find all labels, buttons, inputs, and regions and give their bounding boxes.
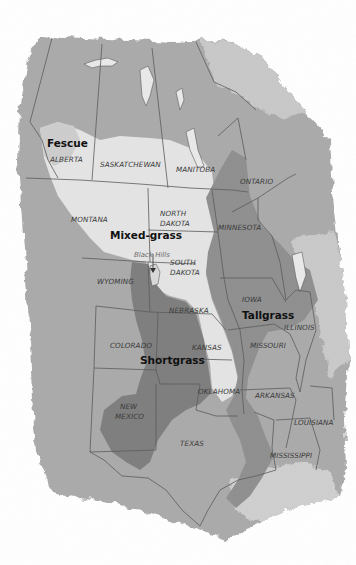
label-wyoming: WYOMING (97, 277, 134, 286)
label-south-dakota: DAKOTA (170, 268, 200, 277)
label-kansas: KANSAS (192, 343, 222, 352)
label-black-hills: Black Hills (134, 251, 170, 259)
label-colorado: COLORADO (110, 341, 152, 350)
region-label-shortgrass: Shortgrass (140, 354, 205, 366)
label-saskatchewan: SASKATCHEWAN (100, 160, 161, 169)
label-new-mexico: MEXICO (115, 412, 144, 421)
label-montana: MONTANA (71, 215, 108, 224)
label-minnesota: MINNESOTA (218, 223, 261, 232)
region-label-tallgrass: Tallgrass (242, 309, 294, 321)
label-louisiana: LOUISIANA (294, 418, 334, 427)
label-alberta: ALBERTA (49, 155, 83, 164)
label-iowa: IOWA (242, 295, 262, 304)
grassland-map: ALBERTA SASKATCHEWAN MANITOBA ONTARIO MO… (0, 0, 356, 565)
label-north-dakota: DAKOTA (160, 219, 190, 228)
label-nebraska: NEBRASKA (169, 306, 209, 315)
label-missouri: MISSOURI (250, 341, 286, 350)
region-label-fescue: Fescue (47, 137, 88, 149)
label-texas: TEXAS (180, 439, 204, 448)
label-mississippi: MISSISSIPPI (270, 451, 312, 460)
label-ontario: ONTARIO (240, 177, 273, 186)
label-oklahoma: OKLAHOMA (198, 387, 240, 396)
region-label-mixed-grass: Mixed-grass (110, 229, 182, 241)
label-arkansas: ARKANSAS (254, 391, 295, 400)
label-new: NEW (120, 402, 138, 411)
label-south: SOUTH (170, 258, 196, 267)
label-north: NORTH (160, 209, 187, 218)
label-illinois: ILLINOIS (284, 323, 315, 332)
label-manitoba: MANITOBA (176, 165, 215, 174)
